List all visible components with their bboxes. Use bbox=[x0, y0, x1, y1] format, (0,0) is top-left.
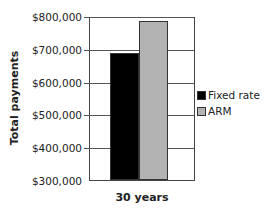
legend: Fixed rate ARM bbox=[197, 87, 260, 119]
gridline bbox=[84, 17, 194, 18]
bar-arm bbox=[139, 21, 168, 180]
y-tick-label: $700,000 bbox=[28, 44, 82, 56]
legend-label-arm: ARM bbox=[208, 105, 232, 117]
y-tick-label: $800,000 bbox=[28, 11, 82, 23]
legend-label-fixed-rate: Fixed rate bbox=[208, 89, 260, 101]
legend-item-fixed-rate: Fixed rate bbox=[197, 87, 260, 103]
y-tick-label: $300,000 bbox=[28, 175, 82, 187]
legend-swatch-fixed-rate bbox=[197, 91, 206, 100]
legend-item-arm: ARM bbox=[197, 103, 260, 119]
y-tick-label: $400,000 bbox=[28, 142, 82, 154]
y-tick-label: $500,000 bbox=[28, 109, 82, 121]
plot-area bbox=[89, 17, 195, 181]
y-axis-label: Total payments bbox=[8, 51, 21, 146]
legend-swatch-arm bbox=[197, 107, 206, 116]
y-tick-label: $600,000 bbox=[28, 77, 82, 89]
bar-fixed-rate bbox=[110, 53, 139, 180]
x-category-label: 30 years bbox=[89, 191, 195, 204]
